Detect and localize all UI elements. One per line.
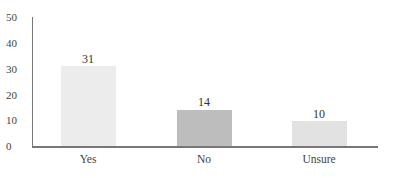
bar-value-no: 14 (176, 95, 232, 110)
y-tick-10: 10 (6, 114, 30, 126)
x-label-yes: Yes (48, 153, 128, 165)
y-tick-50: 50 (6, 11, 30, 23)
bar-chart: 50 40 30 20 10 0 31 14 10 Yes No Unsure (0, 0, 394, 178)
x-axis (32, 146, 378, 148)
bar-yes (61, 66, 116, 146)
x-label-no: No (164, 153, 244, 165)
bar-no (177, 110, 232, 146)
bar-value-unsure: 10 (291, 107, 347, 122)
y-tick-40: 40 (6, 37, 30, 49)
x-label-unsure: Unsure (279, 153, 359, 165)
y-tick-20: 20 (6, 89, 30, 101)
bar-unsure (292, 121, 347, 146)
y-tick-30: 30 (6, 63, 30, 75)
bar-value-yes: 31 (60, 52, 116, 67)
y-tick-0: 0 (6, 140, 30, 152)
y-axis (32, 17, 33, 147)
